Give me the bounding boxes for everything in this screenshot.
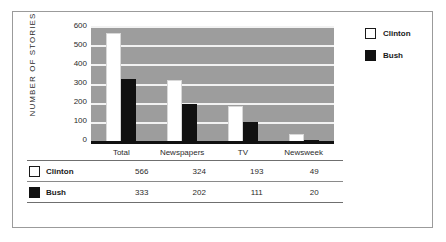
cell-bush-tv: 111 [228, 188, 286, 197]
x-tick-tv: TV [213, 148, 274, 157]
figure-frame: NUMBER OF STORIES 600 500 400 300 200 10… [12, 11, 433, 228]
cell-bush-total: 333 [113, 188, 171, 197]
bar-group-total [106, 26, 136, 144]
white-swatch-icon [29, 166, 40, 177]
bar-clinton-newspapers [167, 80, 182, 144]
cell-clinton-total: 566 [113, 167, 171, 176]
y-tick-100: 100 [74, 117, 87, 125]
cell-clinton-newspapers: 324 [171, 167, 229, 176]
table-row-label-clinton: Clinton [27, 166, 113, 177]
x-tick-newsweek: Newsweek [273, 148, 334, 157]
legend-label-bush: Bush [383, 51, 403, 60]
y-tick-500: 500 [74, 41, 87, 49]
bar-bush-total [121, 79, 136, 144]
black-swatch-icon [29, 187, 40, 198]
bar-clinton-total [106, 33, 121, 144]
cell-clinton-newsweek: 49 [286, 167, 344, 176]
y-tick-300: 300 [74, 79, 87, 87]
y-tick-0: 0 [83, 136, 87, 144]
y-axis-title: NUMBER OF STORIES [28, 10, 37, 120]
cell-bush-newspapers: 202 [171, 188, 229, 197]
bar-group-newsweek [289, 26, 319, 144]
table-row-clinton: Clinton 566 324 193 49 [27, 161, 343, 181]
legend-label-clinton: Clinton [383, 29, 411, 38]
y-axis-tick-labels: 600 500 400 300 200 100 0 [53, 26, 87, 144]
bar-series-container [91, 26, 334, 144]
bar-group-tv [228, 26, 258, 144]
cell-clinton-tv: 193 [228, 167, 286, 176]
x-tick-newspapers: Newspapers [152, 148, 213, 157]
table-row-label-bush: Bush [27, 187, 113, 198]
chart-legend: Clinton Bush [365, 28, 431, 72]
plot-area [91, 26, 334, 144]
x-axis-tick-labels: Total Newspapers TV Newsweek [91, 148, 334, 157]
table-rule-bottom [27, 202, 343, 203]
table-name-bush: Bush [46, 188, 66, 197]
black-swatch-icon [365, 50, 376, 61]
bar-bush-newspapers [182, 104, 197, 144]
legend-item-clinton: Clinton [365, 28, 431, 39]
data-table: Clinton 566 324 193 49 Bush 333 202 111 … [27, 160, 343, 203]
table-row-bush: Bush 333 202 111 20 [27, 182, 343, 202]
table-name-clinton: Clinton [46, 167, 74, 176]
chart-figure: NUMBER OF STORIES 600 500 400 300 200 10… [0, 0, 446, 242]
y-tick-400: 400 [74, 60, 87, 68]
white-swatch-icon [365, 28, 376, 39]
y-tick-200: 200 [74, 98, 87, 106]
bar-clinton-tv [228, 106, 243, 144]
legend-item-bush: Bush [365, 50, 431, 61]
x-axis-baseline [91, 141, 334, 144]
bar-group-newspapers [167, 26, 197, 144]
y-tick-600: 600 [74, 22, 87, 30]
cell-bush-newsweek: 20 [286, 188, 344, 197]
x-tick-total: Total [91, 148, 152, 157]
